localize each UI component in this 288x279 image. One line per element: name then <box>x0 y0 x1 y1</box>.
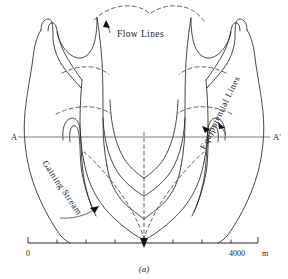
figure-label: (a) <box>139 264 150 274</box>
equipotential-lines-label: Equipotential Lines <box>198 74 242 150</box>
valley-left <box>57 18 97 58</box>
flow-line-fan-right <box>144 152 204 238</box>
flow-net-diagram: Flow Lines Equipotential Lines Gaining S… <box>0 0 288 279</box>
flow-line-fan-left <box>84 152 144 238</box>
tributary-arm-right-outer <box>207 19 247 88</box>
section-label-a: A <box>11 132 18 142</box>
scale-unit-label: m <box>262 249 269 258</box>
equipotential-u-outer-right <box>144 162 204 240</box>
gaining-stream-arrowhead <box>90 206 99 213</box>
stem-left <box>80 80 84 162</box>
scale-min-label: 0 <box>26 249 30 258</box>
gaining-stream-label: Gaining Stream <box>40 159 84 217</box>
scale-max-label: 4000 <box>229 249 245 258</box>
tributary-arm-left-outer <box>41 19 81 88</box>
section-label-a-prime: A' <box>273 132 281 142</box>
flow-line-crown <box>94 6 204 21</box>
flow-line-mid-left <box>56 107 110 114</box>
central-ridge-left <box>97 18 107 166</box>
figure-container: Flow Lines Equipotential Lines Gaining S… <box>0 0 288 279</box>
valley-right <box>191 18 231 58</box>
flow-lines-label: Flow Lines <box>117 29 164 39</box>
central-ridge-right <box>181 18 191 166</box>
equipotential-u-outer <box>84 162 144 240</box>
flow-lines-arrowhead <box>103 20 110 28</box>
